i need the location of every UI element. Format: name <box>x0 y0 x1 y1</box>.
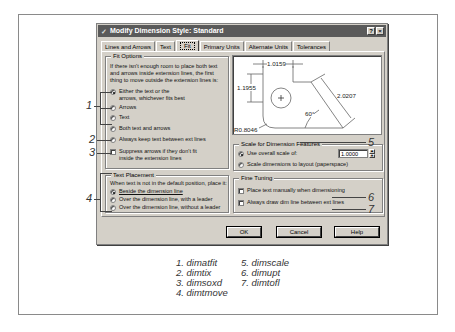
preview-drawing <box>233 56 383 136</box>
callout-1: 1 <box>86 100 92 111</box>
modify-dimension-style-dialog: ✓Modify Dimension Style: Standard ? × Li… <box>96 23 388 245</box>
place-text-manually-checkbox[interactable] <box>238 188 244 194</box>
callout-7: 7 <box>368 204 374 215</box>
radio-arrows-label: Arrows <box>119 104 136 111</box>
radio-beside-label: Beside the dimension line <box>119 188 183 195</box>
overall-scale-spinner[interactable]: ▲ ▼ <box>369 149 375 158</box>
callout-2-line <box>97 140 111 141</box>
callout-4-tick-b <box>100 211 112 212</box>
radio-over-with-leader-label: Over the dimension line, with a leader <box>119 196 213 203</box>
tab-text[interactable]: Text <box>156 41 175 51</box>
radio-both-text-and-arrows[interactable] <box>110 126 116 132</box>
cancel-button[interactable]: Cancel <box>277 227 321 237</box>
callout-1-tick-c <box>100 124 112 125</box>
tab-lines-and-arrows[interactable]: Lines and Arrows <box>101 41 155 51</box>
radio-beside-dimension-line[interactable] <box>110 189 116 195</box>
radio-always-keep-label: Always keep text between ext lines <box>119 136 206 143</box>
always-draw-dim-line-label: Always draw dim line between ext lines <box>247 199 344 206</box>
legend-item: 4. dimtmove <box>176 288 228 298</box>
fine-tuning-group: Fine Tuning Place text manually when dim… <box>233 178 383 213</box>
callout-4: 4 <box>86 193 92 204</box>
radio-scale-to-layout-label: Scale dimensions to layout (paperspace) <box>247 161 348 168</box>
tab-alternate-units[interactable]: Alternate Units <box>245 41 292 51</box>
radio-either-label: Either the text or the arrows, whichever… <box>119 88 189 102</box>
callout-6: 6 <box>368 192 374 203</box>
help-title-button[interactable]: ? <box>367 27 375 35</box>
scale-group: Scale for Dimension Features Use overall… <box>233 144 383 171</box>
preview-label-radius: R0.8046 <box>234 126 257 133</box>
suppress-arrows-label: Suppress arrows if they don't fit inside… <box>119 148 209 162</box>
spin-down-icon[interactable]: ▼ <box>369 154 375 159</box>
text-placement-description: When text is not in the default position… <box>110 180 230 187</box>
callout-3: 3 <box>89 147 95 158</box>
radio-text[interactable] <box>110 115 116 121</box>
fine-tuning-title: Fine Tuning <box>239 174 274 182</box>
radio-scale-to-layout[interactable] <box>238 162 244 168</box>
tab-tolerances[interactable]: Tolerances <box>293 41 330 51</box>
legend-col-1: 1. dimatfit 2. dimtix 3. dimsoxd 4. dimt… <box>176 258 228 298</box>
place-text-manually-label: Place text manually when dimensioning <box>247 187 345 194</box>
always-draw-dim-line-checkbox[interactable] <box>238 200 244 206</box>
preview-label-angle: 60° <box>305 110 314 117</box>
tab-strip: Lines and Arrows Text Fit Primary Units … <box>101 40 331 51</box>
fit-options-group: Fit Options If there isn't enough room t… <box>105 56 229 169</box>
fit-tab-panel: Fit Options If there isn't enough room t… <box>101 51 385 217</box>
callout-4-tick-a <box>100 173 112 174</box>
text-placement-title: Text Placement <box>111 171 156 179</box>
tab-primary-units[interactable]: Primary Units <box>200 41 244 51</box>
text-placement-group: Text Placement When text is not in the d… <box>105 175 229 213</box>
legend-item: 7. dimtofl <box>241 278 289 288</box>
dimension-preview: 1.0159 1.1955 2.0207 60° R0.8046 <box>232 55 382 135</box>
callout-6-line <box>332 197 366 198</box>
callout-4-bracket <box>100 173 101 211</box>
overall-scale-input[interactable]: 1.0000 <box>338 149 368 158</box>
radio-both-label: Both text and arrows <box>119 125 170 132</box>
radio-over-without-leader-label: Over the dimension line, without a leade… <box>119 204 220 211</box>
title-bar: ✓Modify Dimension Style: Standard ? × <box>98 25 386 37</box>
tab-fit-label: Fit <box>180 42 195 50</box>
radio-use-overall-scale-label: Use overall scale of: <box>247 150 297 157</box>
preview-label-top: 1.0159 <box>267 60 286 67</box>
ok-button[interactable]: OK <box>227 227 261 237</box>
callout-7-line <box>332 209 366 210</box>
preview-label-left: 1.1955 <box>237 84 256 91</box>
radio-use-overall-scale[interactable] <box>238 151 244 157</box>
close-button[interactable]: × <box>376 27 384 35</box>
callout-1-tick-b <box>100 108 112 109</box>
radio-text-label: Text <box>119 114 129 121</box>
fit-options-title: Fit Options <box>111 52 144 60</box>
help-button[interactable]: Help <box>335 227 379 237</box>
legend-col-2: 5. dimscale 6. dimupt 7. dimtofl <box>241 258 289 288</box>
callout-5-line <box>300 142 366 143</box>
callout-5: 5 <box>368 137 374 148</box>
preview-label-diag: 2.0207 <box>337 92 356 99</box>
dialog-title: Modify Dimension Style: Standard <box>110 27 224 34</box>
callout-3-line <box>97 153 111 154</box>
radio-over-with-leader[interactable] <box>110 197 116 203</box>
suppress-arrows-checkbox[interactable] <box>110 149 116 155</box>
callout-1-tick-a <box>100 92 112 93</box>
callout-2: 2 <box>89 134 95 145</box>
app-icon: ✓ <box>101 26 108 33</box>
fit-options-description: If there isn't enough room to place both… <box>110 63 226 84</box>
